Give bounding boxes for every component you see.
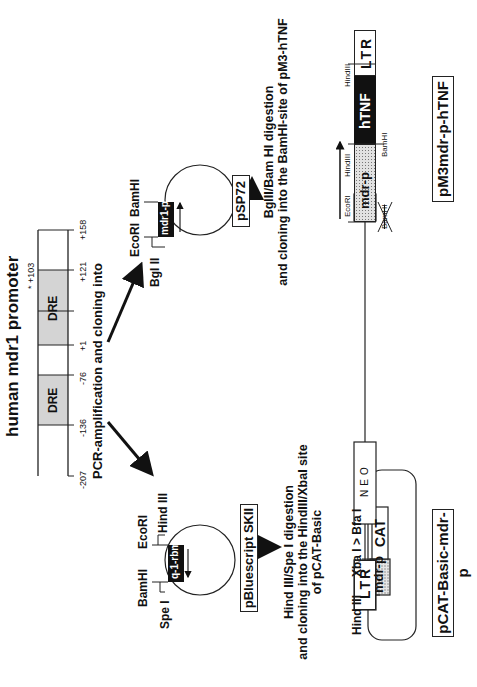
pm3-overlays bbox=[0, 0, 477, 687]
pm3-label: pM3mdr-p-hTNF bbox=[432, 76, 454, 202]
cloning-diagram: human mdr1 promoter DRE DRE * +103 -207 … bbox=[0, 0, 477, 687]
